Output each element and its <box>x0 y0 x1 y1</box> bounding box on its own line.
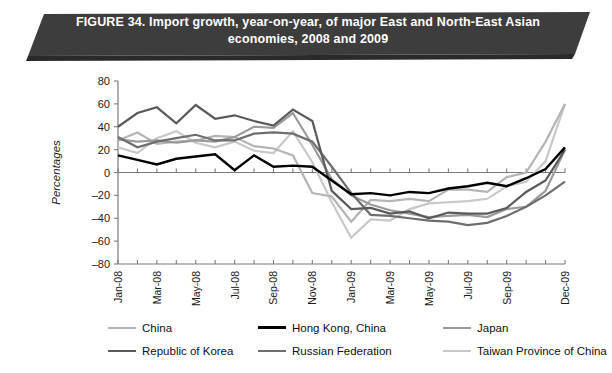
y-tick-label: 80 <box>98 75 110 87</box>
x-tick-label: Jul-08 <box>229 271 241 300</box>
y-tick-label: 40 <box>98 121 110 133</box>
x-tick-label: Mar-09 <box>384 271 396 304</box>
legend-label: Russian Federation <box>292 345 392 357</box>
legend-item[interactable]: Taiwan Province of China <box>443 345 612 357</box>
legend-color-swatch <box>443 350 471 352</box>
legend-label: Taiwan Province of China <box>477 345 607 357</box>
y-tick-label: 20 <box>98 144 110 156</box>
chart-plot-area: 806040200–20–40–60–80 Jan-08Mar-08May-08… <box>0 62 607 312</box>
y-tick-label: –60 <box>92 235 110 247</box>
x-tick-label: Sep-09 <box>501 271 513 305</box>
series-line <box>118 104 565 222</box>
y-tick-label: 0 <box>104 167 110 179</box>
x-tick-label: Mar-08 <box>151 271 163 304</box>
x-tick-label: Jan-09 <box>345 271 357 303</box>
x-tick-label: Dec-09 <box>559 271 571 305</box>
y-tick-label: –80 <box>92 258 110 270</box>
banner-shape <box>0 4 607 62</box>
legend-label: Japan <box>477 322 508 334</box>
series-line <box>118 147 565 195</box>
legend-item[interactable]: Hong Kong, China <box>258 322 443 334</box>
legend-color-swatch <box>258 350 286 352</box>
series-lines <box>118 104 565 238</box>
y-tick-label: –20 <box>92 189 110 201</box>
y-axis-title-text: Percentages <box>50 140 62 205</box>
figure-title-banner: FIGURE 34. Import growth, year-on-year, … <box>0 4 607 62</box>
legend-grid: ChinaHong Kong, ChinaJapanRepublic of Ko… <box>108 316 612 362</box>
series-line <box>118 113 565 217</box>
series-line <box>118 105 565 218</box>
legend-color-swatch <box>108 350 136 352</box>
series-line <box>118 104 565 238</box>
legend-color-swatch <box>108 327 136 329</box>
legend-color-swatch <box>258 326 286 329</box>
x-tick-label: Jul-09 <box>462 271 474 300</box>
legend-label: China <box>142 322 172 334</box>
legend-label: Republic of Korea <box>142 345 233 357</box>
chart-legend: ChinaHong Kong, ChinaJapanRepublic of Ko… <box>0 316 607 370</box>
x-tick-label: Nov-08 <box>306 271 318 305</box>
legend-item[interactable]: China <box>108 322 258 334</box>
y-tick-label: –40 <box>92 212 110 224</box>
line-chart: 806040200–20–40–60–80 Jan-08Mar-08May-08… <box>0 62 607 312</box>
y-tick-label: 60 <box>98 98 110 110</box>
y-axis: 806040200–20–40–60–80 <box>92 75 118 270</box>
legend-item[interactable]: Republic of Korea <box>108 345 258 357</box>
x-axis: Jan-08Mar-08May-08Jul-08Sep-08Nov-08Jan-… <box>112 260 571 306</box>
x-tick-label: Sep-08 <box>267 271 279 305</box>
x-tick-label: Jan-08 <box>112 271 124 303</box>
legend-label: Hong Kong, China <box>292 322 386 334</box>
legend-item[interactable]: Japan <box>443 322 612 334</box>
x-tick-label: May-08 <box>190 271 202 306</box>
legend-item[interactable]: Russian Federation <box>258 345 443 357</box>
y-axis-title: Percentages <box>50 140 62 205</box>
x-tick-label: May-09 <box>423 271 435 306</box>
legend-color-swatch <box>443 327 471 329</box>
zero-line <box>118 169 565 173</box>
